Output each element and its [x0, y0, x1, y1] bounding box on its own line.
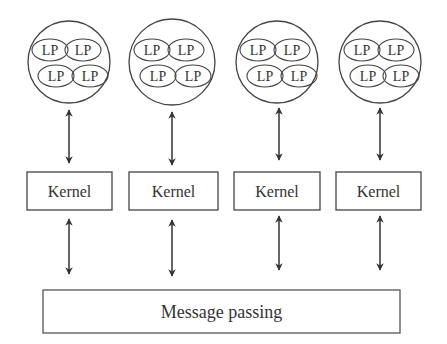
lp-node: LP	[32, 39, 68, 61]
process-group-1: LP LP LP LP Kernel	[27, 21, 112, 274]
lp-node: LP	[383, 65, 419, 87]
svg-text:LP: LP	[354, 43, 371, 58]
message-passing-label: Message passing	[161, 302, 282, 322]
svg-text:LP: LP	[144, 43, 161, 58]
lp-node: LP	[274, 39, 310, 61]
svg-text:LP: LP	[250, 43, 267, 58]
svg-text:LP: LP	[178, 43, 195, 58]
lp-node: LP	[344, 39, 380, 61]
svg-text:LP: LP	[48, 69, 65, 84]
lp-node: LP	[247, 65, 283, 87]
diagram-canvas: LP LP LP LP Kernel LP LP LP LP Kernel LP…	[0, 0, 447, 344]
lp-node: LP	[65, 39, 101, 61]
svg-text:LP: LP	[388, 43, 405, 58]
lp-node: LP	[168, 39, 204, 61]
kernel-label: Kernel	[357, 183, 401, 200]
svg-text:LP: LP	[75, 43, 92, 58]
kernel-label: Kernel	[48, 183, 92, 200]
svg-text:LP: LP	[82, 69, 99, 84]
svg-text:LP: LP	[393, 69, 410, 84]
lp-node: LP	[175, 65, 211, 87]
lp-node: LP	[281, 65, 317, 87]
svg-text:LP: LP	[185, 69, 202, 84]
svg-text:LP: LP	[150, 69, 167, 84]
process-circle	[28, 21, 110, 103]
svg-text:LP: LP	[291, 69, 308, 84]
svg-text:LP: LP	[360, 69, 377, 84]
process-circle	[339, 21, 421, 103]
svg-text:LP: LP	[42, 43, 59, 58]
lp-node: LP	[134, 39, 170, 61]
lp-node: LP	[350, 65, 386, 87]
lp-node: LP	[38, 65, 74, 87]
kernel-label: Kernel	[255, 183, 299, 200]
lp-node: LP	[140, 65, 176, 87]
kernel-label: Kernel	[152, 183, 196, 200]
process-circle	[236, 21, 318, 103]
process-group-2: LP LP LP LP Kernel	[129, 19, 218, 276]
lp-node: LP	[240, 39, 276, 61]
process-group-4: LP LP LP LP Kernel	[336, 21, 421, 270]
svg-text:LP: LP	[257, 69, 274, 84]
lp-node: LP	[72, 65, 108, 87]
svg-text:LP: LP	[284, 43, 301, 58]
lp-node: LP	[378, 39, 414, 61]
process-circle	[129, 19, 215, 105]
process-group-3: LP LP LP LP Kernel	[234, 21, 320, 270]
